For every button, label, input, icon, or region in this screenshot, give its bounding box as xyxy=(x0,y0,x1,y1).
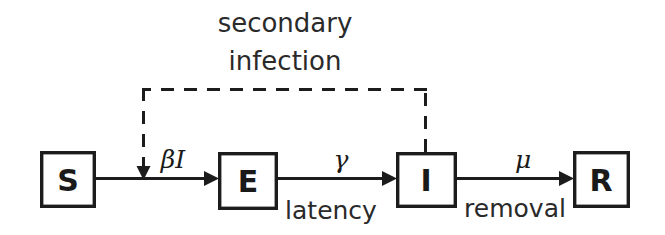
compartment-e-label: E xyxy=(238,164,259,199)
rate-label-mu: μ xyxy=(515,145,531,174)
compartment-e[interactable]: E xyxy=(220,154,277,209)
process-label-latency: latency xyxy=(285,196,377,225)
process-label-removal: removal xyxy=(464,194,566,223)
diagram-canvas: S E I R βI γ μ latency removal secondary… xyxy=(0,0,665,235)
compartment-r[interactable]: R xyxy=(575,153,629,207)
compartment-s-label: S xyxy=(57,163,79,198)
feedback-label-line2: infection xyxy=(229,46,342,76)
compartment-i[interactable]: I xyxy=(398,154,456,207)
feedback-label-line1: secondary xyxy=(218,8,353,38)
compartment-i-label: I xyxy=(420,163,431,198)
arrowhead-i-to-r xyxy=(559,171,574,186)
arrowhead-s-to-e xyxy=(204,171,219,186)
seir-diagram: S E I R βI γ μ latency removal secondary… xyxy=(0,0,665,235)
rate-label-gamma: γ xyxy=(334,145,349,174)
compartment-s[interactable]: S xyxy=(42,153,95,207)
compartment-r-label: R xyxy=(589,163,612,198)
flow-s-to-e xyxy=(96,171,219,186)
arrowhead-e-to-i xyxy=(382,171,397,186)
rate-label-beta-i: βI xyxy=(160,145,186,174)
